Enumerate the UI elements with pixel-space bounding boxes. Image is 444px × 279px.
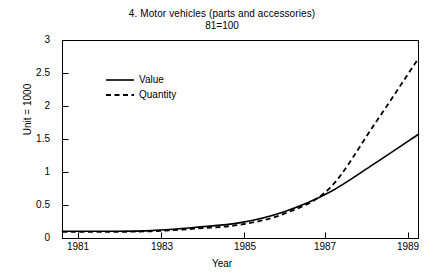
legend-sample-dashed-icon	[106, 90, 134, 100]
y-tick-marks	[63, 41, 69, 239]
legend-item-value: Value	[106, 72, 176, 87]
line-series-value	[63, 134, 419, 231]
legend-item-quantity: Quantity	[106, 87, 176, 102]
legend-label-quantity: Quantity	[139, 87, 176, 102]
legend-label-value: Value	[139, 72, 164, 87]
chart-figure: 4. Motor vehicles (parts and accessories…	[0, 0, 444, 279]
chart-legend: Value Quantity	[106, 72, 176, 102]
x-tick-marks	[79, 233, 409, 239]
legend-sample-solid-icon	[106, 75, 134, 85]
plot-canvas	[0, 0, 444, 279]
